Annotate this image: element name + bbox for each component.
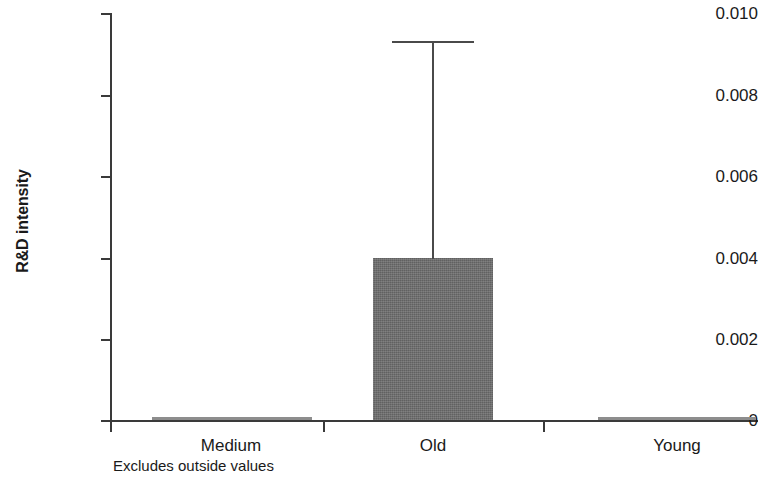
y-axis-tick-label: 0.008 [664, 86, 758, 106]
errorbar-stem-old [432, 41, 434, 259]
chart-container: R&D intensity 0.010 0.008 0.006 0.004 0.… [0, 0, 758, 484]
x-axis-tick-label-medium: Medium [201, 436, 261, 456]
x-axis-tick-label-young: Young [653, 436, 701, 456]
x-axis-tick-label-old: Old [420, 436, 446, 456]
y-axis-tick [101, 95, 110, 97]
y-axis-tick-label: 0.010 [664, 4, 758, 24]
y-axis-tick-label: 0.006 [664, 167, 758, 187]
x-axis-tick [543, 422, 545, 432]
y-axis-tick [101, 13, 110, 15]
y-axis-title: R&D intensity [14, 136, 32, 306]
x-axis-tick [110, 422, 112, 432]
y-axis-tick-label: 0 [664, 411, 758, 431]
errorbar-cap-old [392, 41, 474, 43]
x-axis-line [110, 420, 758, 422]
chart-footnote: Excludes outside values [113, 457, 274, 474]
y-axis-tick [101, 420, 110, 422]
bar-young [598, 417, 756, 420]
y-axis-tick [101, 258, 110, 260]
y-axis-line [110, 13, 112, 422]
bar-medium [152, 417, 312, 420]
y-axis-tick-label: 0.002 [664, 330, 758, 350]
x-axis-tick [323, 422, 325, 432]
y-axis-tick [101, 339, 110, 341]
y-axis-tick [101, 176, 110, 178]
y-axis-tick-label: 0.004 [664, 249, 758, 269]
bar-old [373, 258, 493, 420]
